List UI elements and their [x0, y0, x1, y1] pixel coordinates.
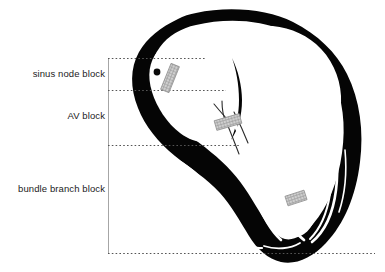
- heart-conduction-diagram: [0, 0, 385, 272]
- label-sinus-node-block: sinus node block: [33, 68, 105, 79]
- label-av-block: AV block: [67, 110, 105, 121]
- diagram-canvas: sinus node block AV block bundle branch …: [0, 0, 385, 272]
- sinus-node-dot: [154, 69, 161, 76]
- label-bundle-branch-block: bundle branch block: [18, 183, 105, 194]
